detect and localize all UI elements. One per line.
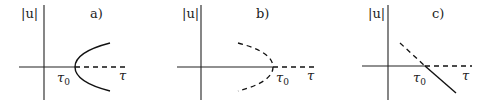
tau0-label: τ0 [57,70,70,87]
unstable-branch-line [400,43,425,66]
tau0-label: τ0 [413,70,426,87]
panel-b: |u| b) τ0 τ [177,5,315,100]
panel-label: b) [256,6,269,21]
y-axis-label: |u| [368,6,385,21]
x-axis-label: τ [307,68,315,83]
y-axis-label: |u| [182,6,199,21]
panel-label: c) [432,6,444,21]
tau0-label: τ0 [276,70,289,87]
x-axis-label: τ [119,68,127,83]
panel-label: a) [90,6,103,21]
bifurcation-diagrams: |u| a) τ0 τ |u| b) τ0 τ |u| c) τ0 τ [0,0,495,105]
panel-a: |u| a) τ0 τ [19,5,127,100]
x-axis-label: τ [462,68,470,83]
panel-c: |u| c) τ0 τ [362,5,472,100]
y-axis-label: |u| [21,6,38,21]
stable-branch-line [425,66,456,93]
